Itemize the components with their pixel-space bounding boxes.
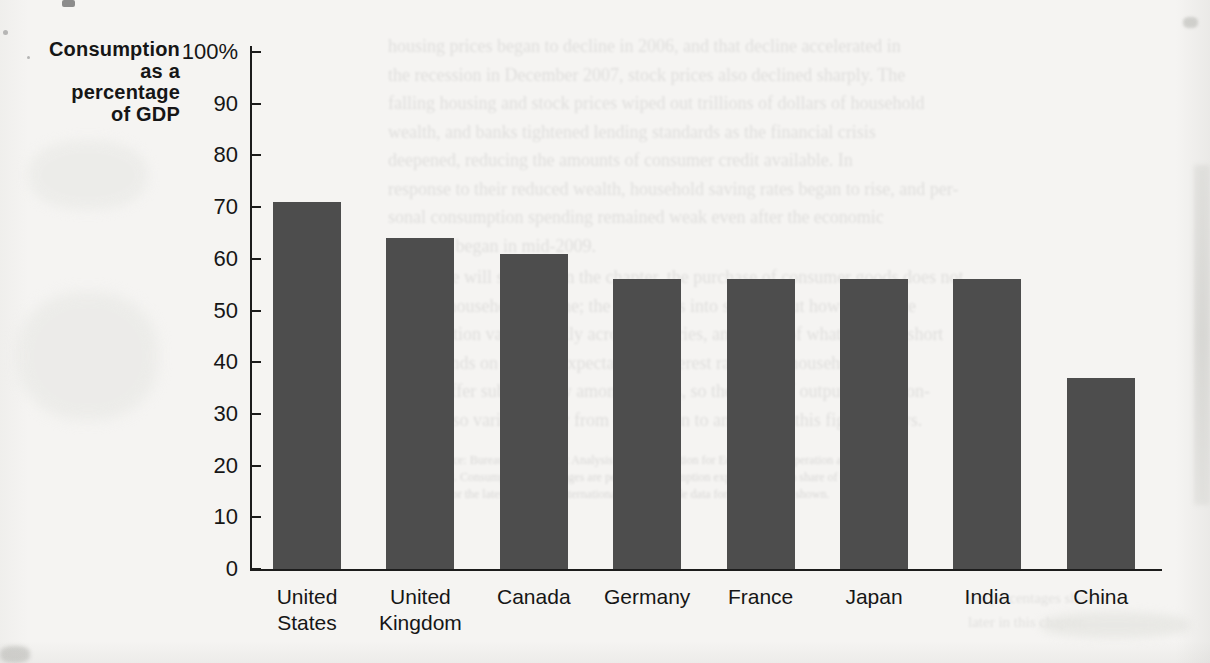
y-tick-mark [252, 258, 261, 260]
scan-smudge [1040, 612, 1190, 638]
category-label-line: Japan [814, 584, 934, 610]
scan-speck [3, 30, 8, 35]
y-tick-label: 0 [148, 555, 238, 583]
y-tick-label: 70 [148, 193, 238, 221]
scan-speck [27, 56, 30, 59]
y-tick-mark [252, 413, 261, 415]
y-tick-label: 60 [148, 245, 238, 273]
bar-india [953, 279, 1021, 569]
bar-canada [500, 254, 568, 569]
category-label: Japan [814, 584, 934, 610]
y-axis-line [250, 46, 252, 571]
y-tick-mark [252, 103, 261, 105]
scan-smudge [28, 140, 148, 210]
category-label: France [701, 584, 821, 610]
y-tick-label: 50 [148, 297, 238, 325]
y-tick-label: 10 [148, 503, 238, 531]
bleedthrough-line: later in this chapter. [968, 610, 1206, 634]
category-label: UnitedKingdom [360, 584, 480, 636]
category-label-line: Canada [474, 584, 594, 610]
y-tick-label: 100% [148, 38, 238, 66]
y-tick-mark [252, 310, 261, 312]
bar-germany [613, 279, 681, 569]
y-tick-mark [252, 465, 261, 467]
scan-smudge [62, 0, 75, 7]
y-tick-mark [252, 206, 261, 208]
category-label: Germany [587, 584, 707, 610]
scanned-textbook-figure: housing prices began to decline in 2006,… [0, 0, 1210, 663]
category-label-line: Germany [587, 584, 707, 610]
y-tick-mark [252, 516, 261, 518]
category-label: UnitedStates [247, 584, 367, 636]
bar-united-states [273, 202, 341, 569]
y-tick-mark [252, 51, 261, 53]
scan-smudge [18, 292, 158, 420]
category-label: India [927, 584, 1047, 610]
y-tick-label: 90 [148, 90, 238, 118]
y-tick-mark [252, 154, 261, 156]
plot-area: 100%9080706050403020100UnitedStatesUnite… [250, 52, 1162, 569]
category-label-line: United [360, 584, 480, 610]
y-tick-label: 40 [148, 348, 238, 376]
y-tick-label: 80 [148, 141, 238, 169]
y-tick-label: 30 [148, 400, 238, 428]
category-label: Canada [474, 584, 594, 610]
bar-japan [840, 279, 908, 569]
category-label-line: France [701, 584, 821, 610]
category-label-line: States [247, 610, 367, 636]
bar-france [727, 279, 795, 569]
category-label-line: United [247, 584, 367, 610]
category-label: China [1041, 584, 1161, 610]
scan-smudge [0, 646, 30, 663]
y-tick-label: 20 [148, 452, 238, 480]
scan-streak [1194, 165, 1210, 505]
y-tick-mark [252, 361, 261, 363]
x-axis-line [250, 569, 1162, 571]
bar-united-kingdom [386, 238, 454, 569]
category-label-line: Kingdom [360, 610, 480, 636]
category-label-line: India [927, 584, 1047, 610]
scan-smudge [1183, 17, 1198, 28]
bar-china [1067, 378, 1135, 569]
category-label-line: China [1041, 584, 1161, 610]
y-tick-mark [252, 568, 261, 570]
